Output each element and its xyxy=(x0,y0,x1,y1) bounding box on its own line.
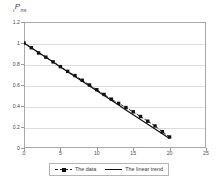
data-point-marker xyxy=(153,124,156,127)
axis-title: ıPns xyxy=(13,2,27,13)
y-tick-label: 0.6 xyxy=(0,82,20,88)
data-point-marker xyxy=(102,93,105,96)
data-point-marker xyxy=(81,79,84,82)
legend-line-solid-icon xyxy=(105,169,122,170)
data-point-marker xyxy=(95,88,98,91)
data-point-marker xyxy=(110,97,113,100)
data-point-marker xyxy=(66,70,69,73)
data-point-marker xyxy=(132,110,135,113)
legend-marker-square-dashed-icon xyxy=(55,167,72,173)
y-tick-label: 0.2 xyxy=(0,124,20,130)
data-point-marker xyxy=(168,135,171,138)
y-tick-label: 0.8 xyxy=(0,61,20,67)
chart-legend: The data The linear trend xyxy=(49,163,169,176)
data-point-marker xyxy=(139,115,142,118)
chart-container: ıPns 00.20.40.60.811.2 0510152025 The da… xyxy=(0,0,216,187)
data-point-marker xyxy=(73,74,76,77)
data-point-marker xyxy=(24,41,26,44)
y-tick-label: 1 xyxy=(0,40,20,46)
legend-item-trend: The linear trend xyxy=(105,166,163,173)
x-tickmark xyxy=(206,148,207,151)
y-tick-label: 0.4 xyxy=(0,103,20,109)
data-point-marker xyxy=(44,55,47,58)
data-point-marker xyxy=(146,120,149,123)
data-point-marker xyxy=(37,51,40,54)
data-point-marker xyxy=(88,83,91,86)
data-point-marker xyxy=(59,65,62,68)
data-point-marker xyxy=(117,102,120,105)
axis-title-suffix: ns xyxy=(20,7,26,13)
data-point-marker xyxy=(30,46,33,49)
data-point-marker xyxy=(51,60,54,63)
legend-label-trend: The linear trend xyxy=(125,166,163,173)
y-tick-label: 1.2 xyxy=(0,19,20,25)
data-point-marker xyxy=(124,106,127,109)
legend-item-data: The data xyxy=(55,166,96,173)
x-tickmark xyxy=(133,148,134,151)
x-tickmark xyxy=(97,148,98,151)
x-tickmark xyxy=(60,148,61,151)
x-tickmark xyxy=(24,148,25,151)
x-tickmark xyxy=(170,148,171,151)
data-point-marker xyxy=(161,130,164,133)
chart-plot xyxy=(24,22,206,148)
legend-label-data: The data xyxy=(75,166,96,173)
